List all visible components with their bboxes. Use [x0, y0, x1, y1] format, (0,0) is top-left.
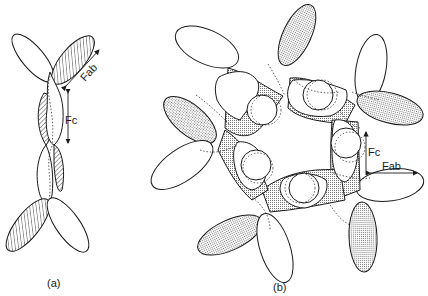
- hinge-lower-hatched: [54, 145, 64, 191]
- caption-a: (a): [47, 277, 60, 289]
- fab-label-b: Fab: [382, 160, 401, 172]
- domain-circle-2: [303, 80, 333, 110]
- panel-a: Fab Fc (a): [0, 28, 101, 289]
- fc-label-a: Fc: [65, 114, 78, 126]
- figure: Fab Fc (a): [0, 0, 428, 296]
- domain-circle-4: [289, 173, 319, 203]
- lobe-top-open: [169, 17, 245, 77]
- lobe-bottom-right-dotted: [348, 202, 378, 273]
- hinge-lower-open: [37, 145, 53, 203]
- panel-b: Fc Fab (b): [143, 0, 426, 293]
- fc-lobe-bottom-right: [40, 192, 96, 258]
- domain-circle-5: [241, 150, 271, 180]
- fc-label-b: Fc: [368, 146, 381, 158]
- lobe-top-dotted: [270, 0, 323, 71]
- domain-circle-1: [247, 95, 277, 125]
- caption-b: (b): [273, 281, 286, 293]
